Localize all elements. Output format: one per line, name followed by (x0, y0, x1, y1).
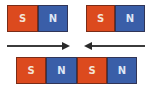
north-pole: N (115, 5, 145, 32)
arrow-right-head-icon (62, 42, 70, 50)
magnet-combined: S N S N (16, 57, 137, 84)
south-pole: S (86, 5, 115, 32)
south-pole: S (77, 57, 107, 84)
magnet-top-right: S N (86, 5, 145, 32)
arrow-right (7, 45, 64, 47)
south-pole: S (16, 57, 46, 84)
magnet-top-left: S N (7, 5, 68, 32)
north-pole: N (46, 57, 77, 84)
arrow-left-head-icon (84, 42, 92, 50)
south-pole: S (7, 5, 38, 32)
arrow-left (90, 45, 145, 47)
north-pole: N (38, 5, 68, 32)
north-pole: N (107, 57, 137, 84)
